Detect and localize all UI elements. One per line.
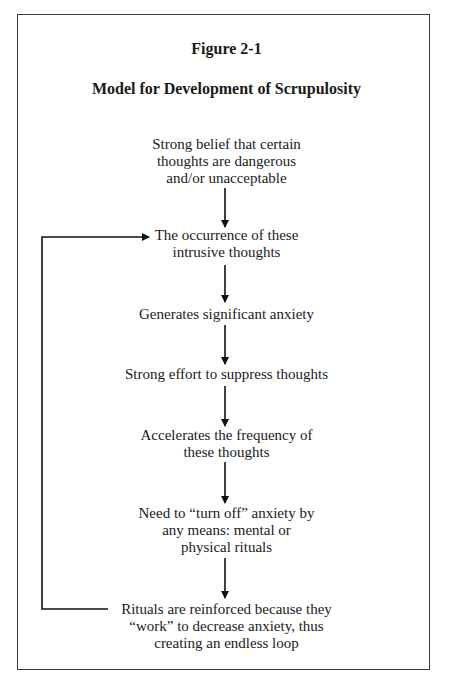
- loop-back-arrow: [42, 237, 149, 609]
- flow-arrows: [0, 0, 453, 689]
